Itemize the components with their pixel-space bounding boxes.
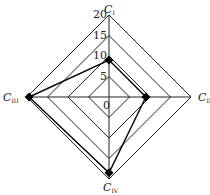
axis-label-c-iv: CIV: [103, 181, 119, 194]
tick-label-0: 0: [103, 99, 110, 112]
radar-axes: [27, 15, 191, 179]
axis-label-c-iii: CIII: [3, 91, 19, 104]
axis-label-c-ii: CII: [198, 91, 210, 104]
axis-label-c-i: CI: [104, 3, 115, 16]
radar-chart: 05101520 CICIICIIICIV: [0, 0, 210, 195]
tick-label-10: 10: [93, 49, 107, 62]
tick-label-5: 5: [100, 70, 107, 83]
tick-label-15: 15: [93, 29, 107, 42]
